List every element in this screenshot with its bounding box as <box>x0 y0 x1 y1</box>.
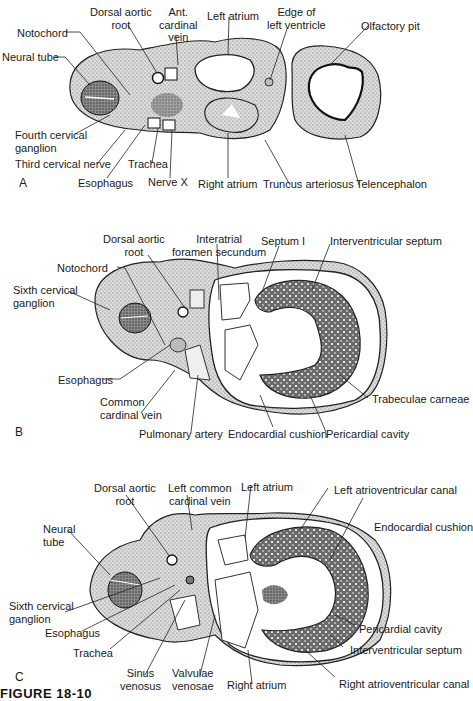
label-c-trachea: Trachea <box>73 647 113 660</box>
label-a-trachea: Trachea <box>128 158 168 171</box>
label-a-left-atrium: Left atrium <box>207 10 259 23</box>
label-a-notochord: Notochord <box>17 27 68 40</box>
label-c-sixth-cervical-ganglion: Sixth cervical ganglion <box>9 600 74 625</box>
label-b-interventricular-septum: Interventricular septum <box>330 235 442 248</box>
figure-caption: FIGURE 18-10 <box>0 686 92 701</box>
label-a-dorsal-aortic-root: Dorsal aortic root <box>90 6 152 31</box>
label-b-esophagus: Esophagus <box>58 374 113 387</box>
panel-c-section <box>90 513 391 666</box>
label-a-edge-left-ventricle: Edge of left ventricle <box>267 6 326 31</box>
label-b-sixth-cervical-ganglion: Sixth cervical ganglion <box>13 284 78 309</box>
label-a-fourth-cervical-ganglion: Fourth cervical ganglion <box>15 129 87 154</box>
label-b-pericardial-cavity: Pericardial cavity <box>326 428 409 441</box>
panel-letter-c: C <box>15 670 24 684</box>
label-a-third-cervical-nerve: Third cervical nerve <box>15 158 111 171</box>
panel-letter-a: A <box>19 176 27 190</box>
label-c-left-common-cardinal-vein: Left common cardinal vein <box>168 482 232 507</box>
label-b-pulmonary-artery: Pulmonary artery <box>139 428 223 441</box>
label-a-telencephalon: Telencephalon <box>356 178 427 191</box>
label-a-nerve-x: Nerve X <box>148 176 188 189</box>
label-c-esophagus: Esophagus <box>45 627 100 640</box>
label-b-dorsal-aortic-root: Dorsal aortic root <box>103 233 165 258</box>
label-c-endocardial-cushion: Endocardial cushion <box>374 521 473 534</box>
label-a-olfactory-pit: Olfactory pit <box>361 20 420 33</box>
label-c-neural-tube: Neural tube <box>43 523 75 548</box>
label-a-neural-tube: Neural tube <box>2 51 59 64</box>
label-c-dorsal-aortic-root: Dorsal aortic root <box>94 482 156 507</box>
label-c-sinus-venosus: Sinus venosus <box>120 667 161 692</box>
label-b-septum-i: Septum I <box>261 235 305 248</box>
label-b-endocardial-cushion: Endocardial cushion <box>228 428 327 441</box>
label-a-truncus-arteriosus: Truncus arteriosus <box>263 178 354 191</box>
label-a-ant-cardinal-vein: Ant. cardinal vein <box>159 6 198 44</box>
label-c-pericardial-cavity: Pericardial cavity <box>359 623 442 636</box>
label-a-right-atrium: Right atrium <box>198 178 257 191</box>
label-c-left-atrium: Left atrium <box>241 481 293 494</box>
panel-letter-b: B <box>15 425 23 439</box>
label-b-trabeculae-carneae: Trabeculae carneae <box>372 393 469 406</box>
label-a-esophagus: Esophagus <box>78 177 133 190</box>
label-c-left-av-canal: Left atrioventricular canal <box>334 484 457 497</box>
label-b-interatrial-foramen-secundum: Interatrial foramen secundum <box>172 233 266 258</box>
label-c-valvulae-venosae: Valvulae venosae <box>172 667 214 692</box>
label-b-notochord: Notochord <box>57 262 108 275</box>
label-b-common-cardinal-vein: Common cardinal vein <box>100 396 162 421</box>
panel-a-section <box>70 38 381 139</box>
label-c-right-av-canal: Right atrioventricular canal <box>339 678 469 691</box>
label-c-right-atrium: Right atrium <box>227 679 286 692</box>
label-c-interventricular-septum: Interventricular septum <box>350 644 462 657</box>
panel-b-section <box>95 259 387 414</box>
